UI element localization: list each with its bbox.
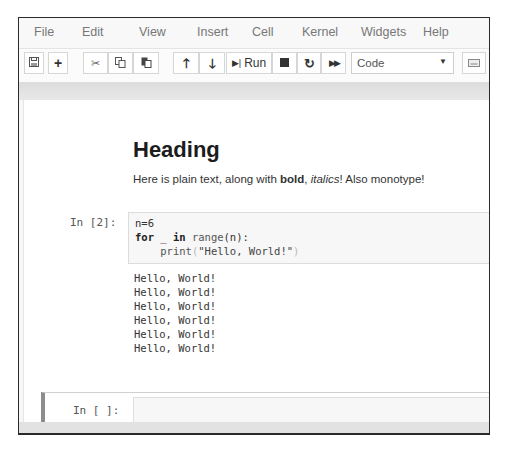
toolbar: + ✂ 🡑 🡓 ▶| Run ↻	[19, 49, 489, 82]
menu-bar: File Edit View Insert Cell Kernel Widget…	[19, 18, 489, 49]
move-up-button[interactable]: 🡑	[173, 52, 199, 74]
run-label: Run	[244, 56, 266, 70]
menu-edit[interactable]: Edit	[82, 25, 104, 39]
copy-icon	[115, 57, 126, 70]
scissors-icon: ✂	[91, 58, 100, 69]
keyboard-icon	[468, 58, 480, 69]
menu-widgets[interactable]: Widgets	[361, 25, 406, 39]
notebook-window: File Edit View Insert Cell Kernel Widget…	[18, 17, 490, 435]
menu-cell[interactable]: Cell	[252, 25, 274, 39]
output-line: Hello, World!	[134, 314, 216, 326]
floppy-disk-icon	[29, 57, 39, 69]
command-palette-button[interactable]	[462, 52, 486, 74]
code-cell-prompt: In [2]:	[70, 216, 116, 229]
markdown-heading: Heading	[133, 137, 220, 163]
arrow-down-icon: 🡓	[209, 57, 216, 70]
output-line: Hello, World!	[134, 286, 216, 298]
arrow-up-icon: 🡑	[183, 57, 190, 70]
cell-type-value: Code	[357, 57, 385, 69]
output-line: Hello, World!	[134, 328, 216, 340]
run-button[interactable]: ▶| Run	[226, 52, 272, 74]
paste-icon	[141, 57, 152, 70]
plain-text: Here is plain text, along with	[133, 173, 280, 185]
empty-cell-prompt: In [ ]:	[73, 404, 119, 417]
move-down-button[interactable]: 🡓	[199, 52, 225, 74]
bold-text: bold	[280, 173, 304, 185]
stop-kernel-button[interactable]	[272, 52, 297, 74]
header-shadow	[19, 82, 489, 100]
code-line-1: n=6	[135, 217, 154, 229]
notebook-page: Heading Here is plain text, along with b…	[23, 100, 490, 422]
copy-button[interactable]	[108, 52, 133, 74]
menu-view[interactable]: View	[139, 25, 166, 39]
code-cell-input[interactable]: n=6 for _ in range(n): print("Hello, Wor…	[128, 212, 490, 264]
menu-kernel[interactable]: Kernel	[302, 25, 338, 39]
restart-kernel-button[interactable]: ↻	[297, 52, 321, 74]
run-all-button[interactable]: ▶▶	[321, 52, 346, 74]
italic-text: italics	[311, 173, 340, 185]
output-line: Hello, World!	[134, 342, 216, 354]
cell-type-select[interactable]: Code ▼	[351, 52, 454, 74]
add-cell-button[interactable]: +	[48, 52, 68, 74]
restart-icon: ↻	[304, 57, 315, 70]
footer-band	[19, 422, 489, 433]
save-button[interactable]	[24, 52, 44, 74]
output-line: Hello, World!	[134, 300, 216, 312]
code-line-3: print("Hello, World!")	[135, 245, 299, 257]
paste-button[interactable]	[133, 52, 159, 74]
menu-file[interactable]: File	[34, 25, 54, 39]
menu-insert[interactable]: Insert	[197, 25, 228, 39]
stop-icon	[280, 58, 289, 69]
step-forward-icon: ▶|	[232, 59, 241, 68]
markdown-paragraph: Here is plain text, along with bold, ita…	[133, 173, 425, 185]
caret-down-icon: ▼	[439, 57, 447, 66]
code-line-2: for _ in range(n):	[135, 231, 249, 243]
trailing-text: ! Also monotype!	[339, 173, 424, 185]
fast-forward-icon: ▶▶	[329, 59, 339, 68]
menu-help[interactable]: Help	[423, 25, 449, 39]
cut-button[interactable]: ✂	[83, 52, 108, 74]
plus-icon: +	[54, 56, 62, 70]
empty-cell-input[interactable]	[133, 397, 490, 423]
output-line: Hello, World!	[134, 272, 216, 284]
